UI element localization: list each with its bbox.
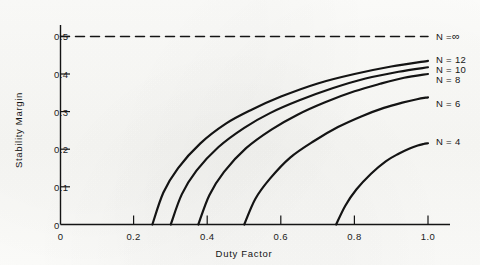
curve-n-12 xyxy=(152,61,428,225)
data-curves xyxy=(61,36,429,224)
curve-n-4 xyxy=(336,143,428,224)
curve-n-8 xyxy=(198,74,428,224)
curve-label-n-6: N = 6 xyxy=(436,98,460,109)
curve-label-n-4: N = 4 xyxy=(436,136,460,147)
curve-n-10 xyxy=(171,67,428,224)
infinity-icon: ∞ xyxy=(452,30,460,42)
y-axis-title: Stability Margin xyxy=(13,92,24,168)
x-tick-label-0.2: 0.2 xyxy=(126,231,140,242)
figure-canvas: 0 0.1 0.2 0.3 0.4 0.5 0 0.2 0.4 0.6 0.8 … xyxy=(0,0,480,265)
x-axis-ticks xyxy=(134,216,428,225)
x-tick-label-1.0: 1.0 xyxy=(421,231,435,242)
x-tick-label-0: 0 xyxy=(58,231,64,242)
curve-label-n-infinity-text: N = xyxy=(436,31,452,42)
curve-label-n-8: N = 8 xyxy=(436,74,460,85)
x-tick-label-0.6: 0.6 xyxy=(274,231,288,242)
curve-n-6 xyxy=(244,97,428,224)
curve-label-n-infinity: N =∞ xyxy=(436,31,460,42)
x-tick-label-0.4: 0.4 xyxy=(200,231,214,242)
plot-area xyxy=(0,0,480,265)
x-tick-label-0.8: 0.8 xyxy=(347,231,361,242)
axis-lines xyxy=(61,25,451,225)
x-axis-title: Duty Factor xyxy=(216,248,273,259)
